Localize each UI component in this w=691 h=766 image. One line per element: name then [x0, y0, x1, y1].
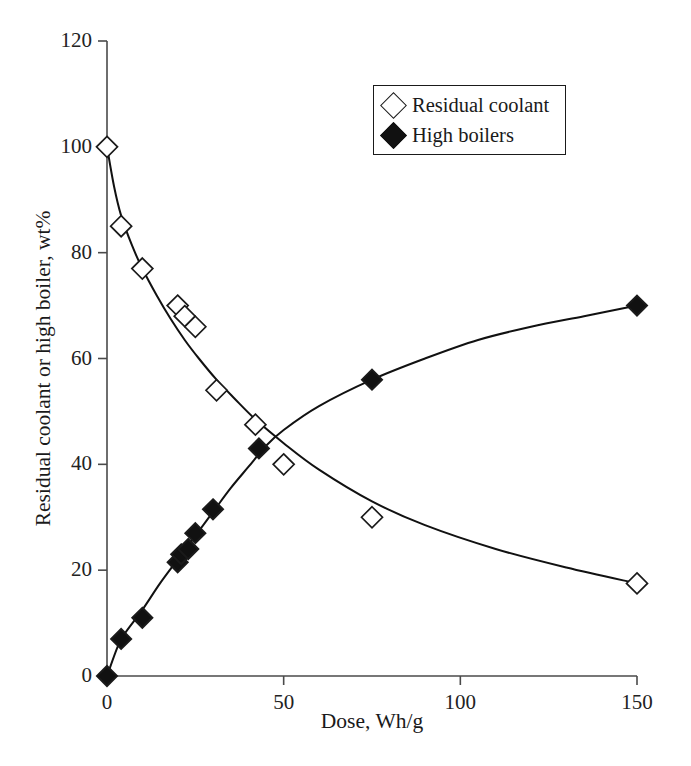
legend-item-high-boilers: High boilers — [384, 120, 514, 150]
y-axis-title: Residual coolant or high boiler, wt% — [31, 109, 56, 629]
chart-figure: 020406080100120 050100150 Residual coola… — [0, 0, 691, 766]
x-axis-title: Dose, Wh/g — [107, 709, 637, 734]
filled-diamond-icon — [380, 122, 407, 149]
data-points-high-boilers — [97, 296, 647, 686]
y-tick-label: 120 — [30, 28, 92, 53]
legend-label-high-boilers: High boilers — [412, 125, 514, 146]
y-tick-label: 0 — [30, 663, 92, 688]
legend-item-residual-coolant: Residual coolant — [384, 90, 549, 120]
chart-plot-area — [0, 0, 691, 766]
open-diamond-icon — [380, 92, 407, 119]
data-points-residual-coolant — [97, 136, 648, 594]
chart-legend: Residual coolant High boilers — [373, 85, 566, 155]
fit-curve-high-boilers — [107, 306, 637, 676]
legend-label-residual-coolant: Residual coolant — [412, 95, 549, 116]
